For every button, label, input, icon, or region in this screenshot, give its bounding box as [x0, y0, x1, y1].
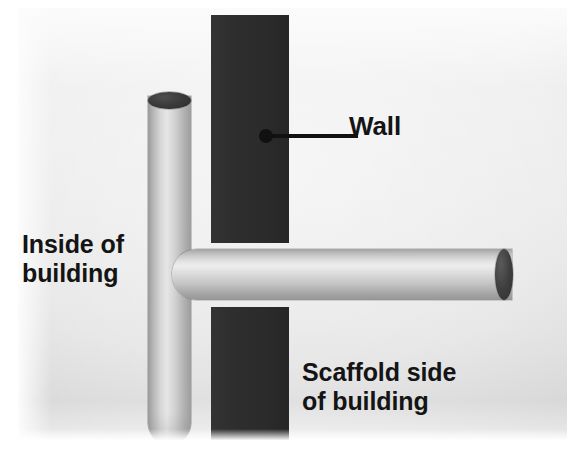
horizontal-scaffold-tube: [172, 249, 512, 300]
wall-segment-upper: [211, 15, 289, 243]
scaffold-wall-diagram: Wall Inside of building Scaffold side of…: [0, 0, 585, 460]
wall-segment-lower: [211, 307, 289, 445]
photo-left-highlight: [18, 8, 52, 445]
horizontal-tube-open-end-icon: [495, 249, 513, 300]
scaffold-side-of-building-label: Scaffold side of building: [302, 358, 456, 417]
photo-bottom-highlight: [18, 429, 567, 445]
inside-of-building-label: Inside of building: [22, 230, 124, 289]
photo-plate: [18, 8, 567, 445]
wall-label: Wall: [349, 111, 401, 141]
vertical-tube-foot-shading: [148, 412, 191, 444]
wall-callout-leader-line: [270, 134, 358, 138]
photo-top-highlight: [18, 8, 567, 86]
vertical-tube-open-end-icon: [148, 92, 191, 109]
